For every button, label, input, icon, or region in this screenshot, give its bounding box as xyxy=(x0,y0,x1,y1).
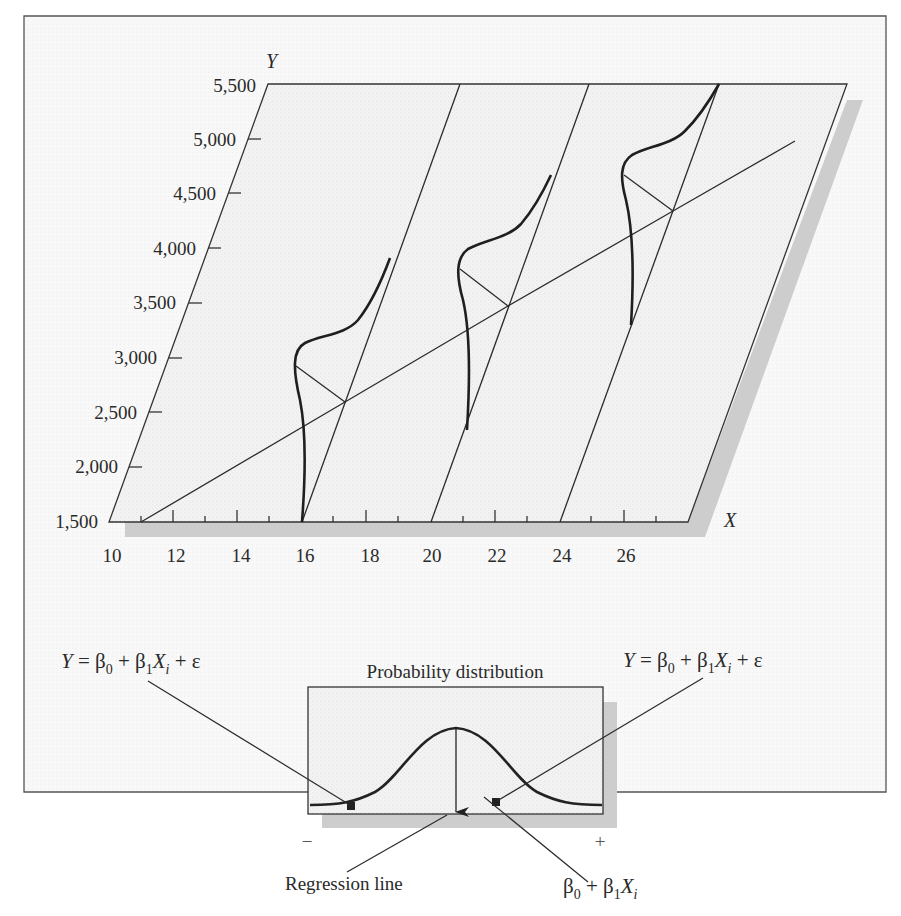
y-tick-label: 3,000 xyxy=(114,347,157,368)
x-tick-label: 12 xyxy=(167,545,186,566)
x-tick-label: 16 xyxy=(296,545,315,566)
x-tick-label: 10 xyxy=(103,545,122,566)
y-tick-label: 4,000 xyxy=(153,238,196,259)
y-tick-label: 2,500 xyxy=(94,402,137,423)
inset-title: Probability distribution xyxy=(367,661,544,682)
y-axis-name: Y xyxy=(266,50,279,72)
x-tick-label: 14 xyxy=(232,545,252,566)
x-tick-label: 26 xyxy=(617,545,636,566)
minus-sign: − xyxy=(302,831,313,852)
left-formula-label: Y = β0 + β1Xi + ε xyxy=(61,649,201,677)
mean-formula-label: β0 + β1Xi xyxy=(563,874,638,902)
y-tick-label: 5,000 xyxy=(193,129,236,150)
regression-line-label: Regression line xyxy=(285,873,403,894)
right-formula-label: Y = β0 + β1Xi + ε xyxy=(623,648,763,676)
y-tick-label: 5,500 xyxy=(213,75,256,96)
x-tick-labels: 10 12 14 16 18 20 22 24 26 xyxy=(103,545,636,566)
plus-sign: + xyxy=(595,831,606,852)
y-tick-label: 3,500 xyxy=(133,292,176,313)
y-tick-label: 4,500 xyxy=(173,183,216,204)
regression-diagram: 1,500 2,000 2,500 3,000 3,500 4,000 4,50… xyxy=(0,0,901,916)
figure-stage: 1,500 2,000 2,500 3,000 3,500 4,000 4,50… xyxy=(0,0,901,916)
x-axis-name: X xyxy=(723,509,737,531)
x-tick-label: 22 xyxy=(488,545,507,566)
x-tick-label: 24 xyxy=(553,545,573,566)
y-tick-label: 1,500 xyxy=(55,511,98,532)
x-tick-label: 18 xyxy=(361,545,380,566)
y-tick-label: 2,000 xyxy=(75,456,118,477)
x-tick-label: 20 xyxy=(423,545,442,566)
